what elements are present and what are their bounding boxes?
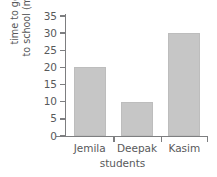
y-axis-tick-label-wrap: 15 (36, 79, 57, 90)
y-axis-tick-label: 10 (36, 96, 57, 107)
bar (74, 67, 106, 136)
y-axis-tick (60, 67, 65, 68)
y-axis-tick (60, 84, 65, 85)
y-axis-tick-label: 0 (36, 131, 57, 142)
y-axis-tick-label-wrap: 35 (36, 11, 57, 22)
y-axis-tick (60, 101, 65, 102)
y-axis-tick-label-wrap: 25 (36, 45, 57, 56)
y-axis-title-line-1: time to get (9, 0, 21, 66)
y-axis-tick-label: 35 (36, 11, 57, 22)
y-axis-tick (60, 15, 65, 16)
y-axis-tick-label-wrap: 10 (36, 96, 57, 107)
x-axis-tick (113, 137, 114, 142)
x-axis-tick-end (207, 137, 208, 142)
y-axis-title: time to get to school (mins) (9, 0, 39, 66)
x-axis-title: students (0, 157, 217, 170)
y-axis-tick-label: 20 (36, 62, 57, 73)
y-axis-tick-label-wrap: 30 (36, 28, 57, 39)
y-axis-tick (60, 50, 65, 51)
y-axis-line (65, 14, 66, 137)
x-axis-tick (161, 137, 162, 142)
y-axis-tick (60, 32, 65, 33)
y-axis-tick-label: 30 (36, 28, 57, 39)
y-axis-tick-label: 25 (36, 45, 57, 56)
y-axis-tick-label-wrap: 0 (36, 131, 57, 142)
y-axis-tick-label-wrap: 5 (36, 113, 57, 124)
y-axis-tick (60, 118, 65, 119)
y-axis-tick-label-wrap: 20 (36, 62, 57, 73)
bar (168, 33, 200, 136)
y-axis-tick-label: 5 (36, 113, 57, 124)
bar (121, 102, 153, 136)
bar-chart: time to get to school (mins) 05101520253… (0, 0, 217, 177)
x-axis-category-label: Deepak (113, 142, 160, 155)
x-axis-category-label: Kasim (161, 142, 208, 155)
y-axis-tick (60, 135, 65, 136)
y-axis-title-line-2: to school (mins) (21, 0, 33, 66)
y-axis-tick-label: 15 (36, 79, 57, 90)
x-axis-category-label: Jemila (66, 142, 113, 155)
